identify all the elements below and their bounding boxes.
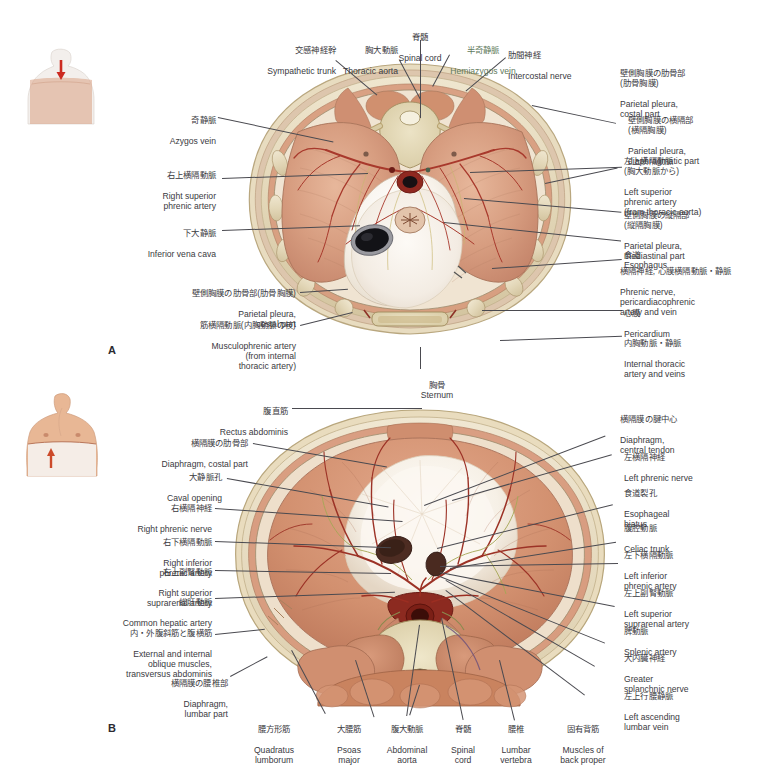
label-right-superior-phrenic-artery: 右上横隔動脈 Right superior phrenic artery — [134, 160, 216, 211]
label-jp: 固有背筋 — [567, 724, 600, 734]
label-en: Inferior vena cava — [148, 249, 216, 259]
label-intercostal-nerve: 肋間神経 Intercostal nerve — [508, 40, 600, 81]
leader-pericardium — [482, 310, 622, 311]
label-left-phrenic-nerve: 左横隔神経 Left phrenic nerve — [624, 442, 756, 483]
label-en: Sternum — [421, 390, 453, 400]
label-jp: 脾動脈 — [624, 626, 649, 636]
label-sternum: 胸骨 Sternum — [382, 370, 492, 401]
label-jp: 壁側胸膜の肋骨部 (肋骨胸膜) — [620, 68, 686, 88]
label-jp: 食道裂孔 — [624, 488, 657, 498]
atlas-page: A B 交感神経幹 Sympathetic trunk 胸大動脈 Thoraci… — [0, 0, 760, 767]
label-jp: 右上副腎動脈 — [163, 567, 212, 577]
label-en: Intercostal nerve — [508, 71, 572, 81]
label-jp: 腹腔動脈 — [624, 523, 657, 533]
label-diaphragm-lumbar: 横隔膜の腰椎部 Diaphragm, lumbar part — [118, 668, 228, 719]
label-en: Muscles of back proper — [560, 745, 605, 765]
label-lumbar-vertebra: 腰椎 Lumbar vertebra — [488, 714, 544, 765]
label-jp: 左上行腰静脈 — [624, 691, 673, 701]
label-left-ascending-lumbar-vein: 左上行腰静脈 Left ascending lumbar vein — [624, 681, 756, 732]
label-jp: 右横隔神経 — [171, 503, 212, 513]
label-jp: 壁側胸膜の横隔部 (横隔胸膜) — [628, 115, 694, 135]
label-jp: 半奇静脈 — [467, 45, 500, 55]
label-jp: 胸骨 — [429, 380, 445, 390]
label-jp: 総肝動脈 — [179, 597, 212, 607]
label-azygos-vein: 奇静脈 Azygos vein — [140, 105, 216, 146]
label-jp: 脊髄 — [455, 724, 471, 734]
label-musculophrenic-artery: 筋横隔動脈(内胸動脈の枝) Musculophrenic artery (fro… — [88, 310, 296, 371]
label-jp: 内胸動脈・静脈 — [624, 338, 681, 348]
label-jp: 左上横隔動脈 (胸大動脈から) — [624, 156, 679, 176]
label-jp: 腰方形筋 — [258, 724, 291, 734]
label-quadratus-lumborum: 腰方形筋 Quadratus lumborum — [238, 714, 310, 765]
label-jp: 横隔膜の肋骨部 — [191, 438, 248, 448]
label-jp: 大静脈孔 — [189, 472, 222, 482]
label-en: Hemiazygos vein — [450, 66, 515, 76]
label-en: Left ascending lumbar vein — [624, 712, 680, 732]
label-jp: 左上副腎動脈 — [624, 588, 673, 598]
label-jp: 横隔膜の腱中心 — [620, 414, 677, 424]
label-thoracic-aorta: 胸大動脈 Thoracic aorta — [312, 35, 398, 76]
label-jp: 腹大動脈 — [391, 724, 424, 734]
label-jp: 下大静脈 — [183, 228, 216, 238]
label-abdominal-aorta: 腹大動脈 Abdominal aorta — [378, 714, 436, 765]
torso-thumbnail-inferior — [22, 392, 102, 480]
label-en: Lumbar vertebra — [500, 745, 532, 765]
leader-sternum — [420, 347, 421, 369]
label-muscles-back-proper: 固有背筋 Muscles of back proper — [548, 714, 618, 765]
label-jp: 心膜 — [624, 308, 640, 318]
label-jp: 右上横隔動脈 — [167, 170, 216, 180]
label-en: Spinal cord — [399, 53, 442, 63]
label-inferior-vena-cava: 下大静脈 Inferior vena cava — [118, 218, 216, 259]
label-en: Right superior phrenic artery — [163, 191, 217, 211]
label-en: Diaphragm, lumbar part — [184, 699, 228, 719]
panel-b-illustration — [222, 404, 618, 716]
label-jp: 内・外腹斜筋と腹横筋 — [130, 628, 212, 638]
label-jp: 脊髄 — [412, 32, 428, 42]
label-jp: 右下横隔動脈 — [163, 537, 212, 547]
label-psoas-major: 大腰筋 Psoas major — [324, 714, 374, 765]
label-en: Quadratus lumborum — [254, 745, 294, 765]
label-spinal-cord-b: 脊髄 Spinal cord — [440, 714, 486, 765]
label-en: Musculophrenic artery (from internal tho… — [211, 341, 296, 371]
label-jp: 腹直筋 — [263, 406, 288, 416]
label-en: Thoracic aorta — [343, 66, 398, 76]
label-en: Abdominal aorta — [387, 745, 428, 765]
label-jp: 肋間神経 — [508, 50, 541, 60]
label-en: Psoas major — [337, 745, 361, 765]
panel-letter-b: B — [108, 722, 116, 734]
label-jp: 左下横隔動脈 — [624, 550, 673, 560]
label-en: Azygos vein — [170, 136, 216, 146]
label-jp: 奇静脈 — [191, 115, 216, 125]
label-jp: 筋横隔動脈(内胸動脈の枝) — [200, 320, 296, 330]
label-en: Internal thoracic artery and veins — [624, 359, 685, 379]
label-jp: 横隔膜の腰椎部 — [171, 678, 228, 688]
label-jp: 壁側胸膜の縦隔部 (縦隔胸膜) — [624, 210, 690, 230]
label-jp: 左横隔神経 — [624, 452, 665, 462]
label-internal-thoracic: 内胸動脈・静脈 Internal thoracic artery and vei… — [624, 328, 756, 379]
label-en: Spinal cord — [451, 745, 475, 765]
torso-thumbnail-superior — [22, 44, 100, 130]
label-jp: 大内臓神経 — [624, 653, 665, 663]
label-jp: 大腰筋 — [337, 724, 362, 734]
label-jp: 壁側胸膜の肋骨部(肋骨胸膜) — [192, 288, 296, 298]
leader-rectus-abdominis — [292, 408, 422, 409]
label-jp: 横隔神経, 心膜横隔動脈・静脈 — [620, 266, 732, 276]
label-jp: 腰椎 — [508, 724, 524, 734]
